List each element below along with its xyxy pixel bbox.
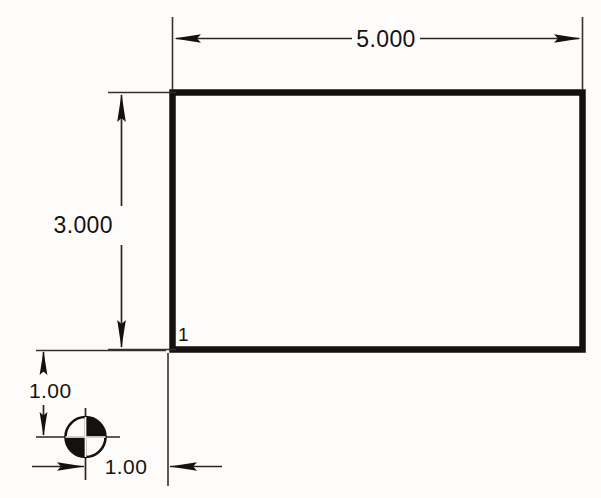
engineering-drawing-canvas: 1 5.000 3.000 (0, 0, 601, 498)
datum-horizontal-left-arrowhead (57, 462, 85, 471)
datum-feature-label: 1 (178, 324, 189, 345)
drawing-svg: 1 5.000 3.000 (0, 0, 601, 498)
datum-vertical-bottom-arrowhead (40, 412, 48, 436)
datum-horizontal-right-arrowhead (170, 462, 198, 471)
datum-horizontal-offset-text: 1.00 (105, 455, 147, 478)
width-left-arrowhead (174, 34, 201, 43)
height-dimension-text: 3.000 (53, 212, 113, 238)
width-dimension-text: 5.000 (356, 26, 416, 52)
width-right-arrowhead (554, 34, 581, 43)
datum-vertical-offset-text: 1.00 (29, 379, 71, 402)
height-bottom-arrowhead (117, 320, 126, 348)
datum-vertical-top-arrowhead (40, 351, 48, 375)
height-top-arrowhead (117, 94, 126, 122)
datum-target-point-symbol (66, 417, 106, 457)
part-outline-rectangle (173, 93, 583, 350)
